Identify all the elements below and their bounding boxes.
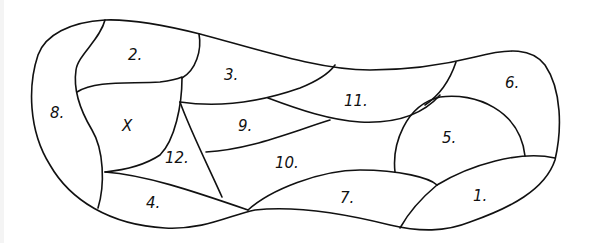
region-label-3: 3. xyxy=(224,66,238,84)
divider-2-x xyxy=(77,77,182,92)
region-map-diagram: 1. 2. 3. 4. 5. 6. 7. 8. 9. 10. 11. 12. X xyxy=(0,0,592,243)
region-label-10: 10. xyxy=(275,154,299,172)
region-label-8: 8. xyxy=(50,104,64,122)
region-label-7: 7. xyxy=(340,189,354,207)
region-label-x: X xyxy=(121,117,133,135)
divider-4-12 xyxy=(105,172,248,210)
region-label-2: 2. xyxy=(128,46,142,64)
region-label-9: 9. xyxy=(238,117,252,135)
divider-5 xyxy=(395,96,525,172)
divider-11-6 xyxy=(425,62,456,105)
region-label-1: 1. xyxy=(473,187,487,205)
region-label-6: 6. xyxy=(505,74,519,92)
divider-3-9 xyxy=(180,65,335,104)
region-label-5: 5. xyxy=(442,129,456,147)
region-map-svg: 1. 2. 3. 4. 5. 6. 7. 8. 9. 10. 11. 12. X xyxy=(0,0,592,243)
region-label-12: 12. xyxy=(165,149,189,167)
divider-1-top xyxy=(437,156,555,185)
divider-1-7 xyxy=(400,185,437,228)
divider-2-3 xyxy=(182,34,200,78)
region-label-11: 11. xyxy=(344,92,368,110)
left-edge-shade xyxy=(0,0,4,243)
divider-9-10 xyxy=(206,120,330,152)
divider-8 xyxy=(75,20,105,208)
region-label-4: 4. xyxy=(146,194,160,212)
